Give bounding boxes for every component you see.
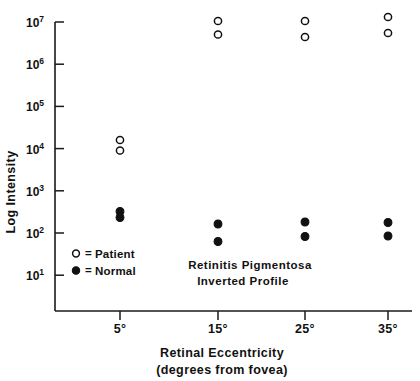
legend-item-normal: = Normal xyxy=(72,264,136,277)
data-point-normal xyxy=(214,220,222,228)
data-point-patient xyxy=(116,136,123,143)
annotation-line2: Inverted Profile xyxy=(197,275,289,287)
y-axis-ticks xyxy=(55,22,64,275)
annotation-line1: Retinitis Pigmentosa xyxy=(188,259,312,271)
x-axis-tick-labels: 5° 15° 25° 35° xyxy=(114,322,398,336)
y-tick-label-1e3: 103 xyxy=(26,183,44,199)
y-axis-tick-labels: 107 106 105 104 103 102 101 xyxy=(26,14,44,283)
data-point-normal xyxy=(116,214,124,222)
data-point-normal xyxy=(384,219,392,227)
x-axis-title-line1: Retinal Eccentricity xyxy=(160,346,284,360)
data-point-normal xyxy=(214,238,222,246)
legend-patient-equals: = xyxy=(85,247,92,259)
x-tick-label-5deg: 5° xyxy=(114,322,127,336)
x-axis-ticks xyxy=(120,311,388,320)
data-point-normal xyxy=(301,233,309,241)
x-axis-title: Retinal Eccentricity (degrees from fovea… xyxy=(156,346,288,377)
y-tick-label-1e5: 105 xyxy=(26,98,44,114)
data-point-patient xyxy=(301,17,308,24)
series-patient-points xyxy=(116,13,391,154)
data-point-patient xyxy=(301,33,308,40)
legend-patient-label: Patient xyxy=(95,248,135,260)
y-axis-title: Log Intensity xyxy=(4,151,18,234)
data-point-patient xyxy=(214,17,221,24)
y-tick-label-1e6: 106 xyxy=(26,56,44,72)
legend-item-patient: = Patient xyxy=(73,247,135,260)
data-point-patient xyxy=(384,29,391,36)
x-axis-title-line2: (degrees from fovea) xyxy=(156,363,288,377)
data-point-patient xyxy=(384,13,391,20)
x-tick-label-35deg: 35° xyxy=(378,322,398,336)
legend-filled-circle-icon xyxy=(72,267,79,274)
legend-normal-label: Normal xyxy=(95,265,136,277)
plot-annotation: Retinitis Pigmentosa Inverted Profile xyxy=(188,259,312,287)
y-tick-label-1e7: 107 xyxy=(26,14,44,30)
data-point-patient xyxy=(116,147,123,154)
x-tick-label-25deg: 25° xyxy=(295,322,315,336)
legend-normal-equals: = xyxy=(85,264,92,276)
data-point-normal xyxy=(301,218,309,226)
legend: = Patient = Normal xyxy=(72,247,136,277)
scatter-plot: 107 106 105 104 103 102 101 Log Intensit… xyxy=(0,0,420,381)
data-point-normal xyxy=(384,232,392,240)
x-tick-label-15deg: 15° xyxy=(208,322,228,336)
figure-container: 107 106 105 104 103 102 101 Log Intensit… xyxy=(0,0,420,381)
legend-open-circle-icon xyxy=(73,250,80,257)
y-tick-label-1e1: 101 xyxy=(26,267,44,283)
y-tick-label-1e2: 102 xyxy=(26,225,44,241)
y-tick-label-1e4: 104 xyxy=(26,141,44,157)
data-point-patient xyxy=(214,31,221,38)
series-normal-points xyxy=(116,208,392,246)
